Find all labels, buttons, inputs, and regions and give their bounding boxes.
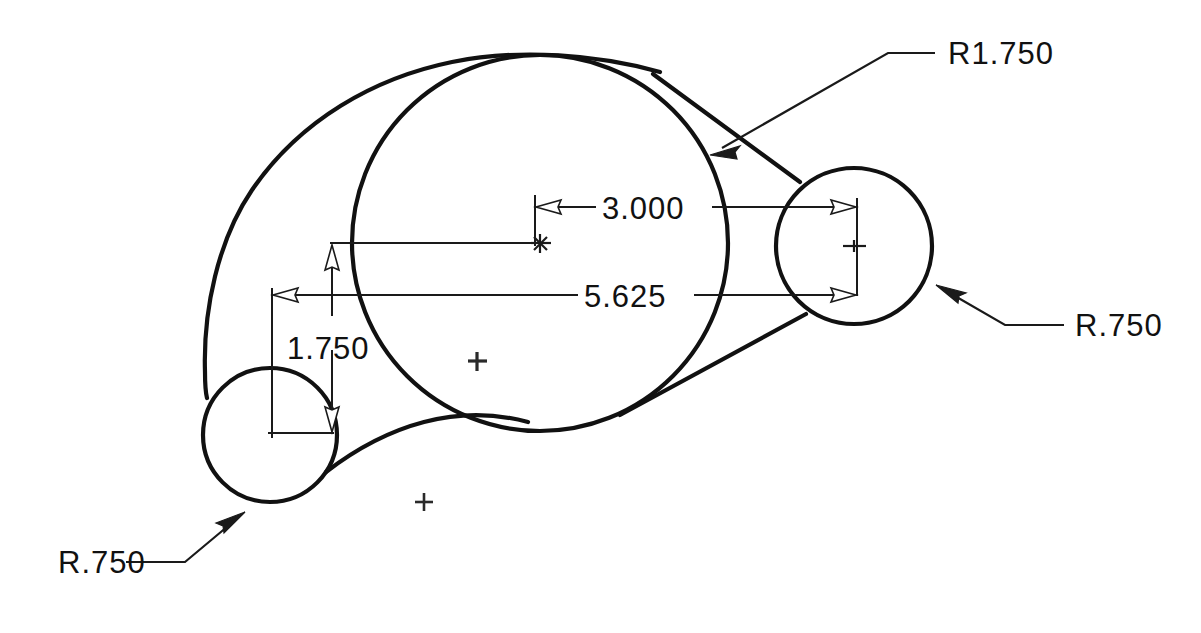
- lower-tangent-line: [620, 314, 806, 415]
- construction-plus-mark-upper: [468, 352, 487, 371]
- construction-plus-mark-lower: [415, 493, 433, 511]
- callout-r750-right-leader: [948, 292, 1064, 325]
- lower-left-radius-circle: [203, 368, 337, 502]
- dimension-1750: 1.750: [268, 243, 536, 433]
- engineering-drawing-canvas: 3.000 5.625 1.750 R1.750: [0, 0, 1201, 633]
- upper-tangent-line: [653, 74, 800, 182]
- dim-5625-arrow-left: [273, 288, 298, 302]
- callout-r750-lowerleft-label: R.750: [58, 545, 146, 580]
- dim-1750-label: 1.750: [287, 331, 370, 366]
- callout-r1750: R1.750: [710, 36, 1054, 159]
- lower-fillet-arc: [326, 415, 528, 472]
- dim-5625-label: 5.625: [584, 279, 667, 314]
- callout-r750-lowerleft: R.750: [58, 512, 245, 580]
- callout-r1750-leader: [722, 53, 935, 148]
- callout-r1750-label: R1.750: [948, 36, 1054, 71]
- dim-1750-arrow-top: [325, 245, 339, 270]
- dim-3000-arrow-left: [536, 200, 561, 214]
- dim-3000-arrow-right: [831, 200, 856, 214]
- callout-r750-lowerleft-arrowhead: [216, 512, 245, 533]
- dim-5625-arrow-right: [831, 288, 856, 302]
- callout-r750-right-label: R.750: [1075, 308, 1163, 343]
- callout-r1750-arrowhead: [710, 146, 740, 159]
- dim-3000-label: 3.000: [602, 191, 685, 226]
- outer-body-profile: [205, 55, 660, 398]
- right-circle-center-mark: [843, 240, 866, 252]
- callout-r750-right: R.750: [936, 285, 1163, 343]
